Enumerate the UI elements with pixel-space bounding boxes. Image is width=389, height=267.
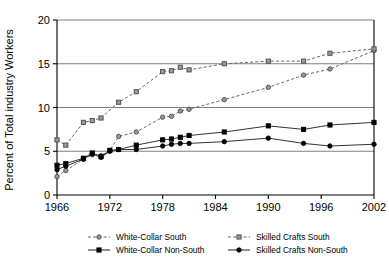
data-point [55,163,59,167]
data-point [116,134,120,138]
data-point [222,139,226,143]
x-tick-label: 1972 [98,201,122,213]
data-point [99,116,103,120]
legend-marker [97,248,101,252]
data-point [178,109,182,113]
x-tick-label: 1990 [256,201,280,213]
legend-label: Skilled Crafts Non-South [256,245,348,255]
data-point [372,142,376,146]
legend-label: Skilled Crafts South [256,232,330,242]
chart-background [0,0,389,267]
data-point [160,115,164,119]
data-point [301,127,305,131]
y-tick-label: 15 [38,58,50,70]
data-point [160,144,164,148]
data-point [187,107,191,111]
data-point [266,85,270,89]
data-point [222,62,226,66]
x-tick-label: 1966 [45,201,69,213]
data-point [81,120,85,124]
data-point [187,133,191,137]
data-point [178,141,182,145]
legend-marker [97,235,101,239]
data-point [169,114,173,118]
data-point [81,157,85,161]
legend-marker [237,235,241,239]
data-point [178,65,182,69]
data-point [187,68,191,72]
data-point [328,67,332,71]
data-point [55,174,59,178]
data-point [161,70,165,74]
x-tick-label: 2002 [362,201,386,213]
data-point [116,147,120,151]
data-point [328,123,332,127]
data-point [222,97,226,101]
line-chart: Percent of Total industry Workers 051015… [0,0,389,267]
legend-marker [237,248,241,252]
data-point [169,142,173,146]
data-point [134,90,138,94]
legend-label: White-Collar South [116,232,187,242]
data-point [55,167,59,171]
y-tick-label: 5 [44,145,50,157]
data-point [301,59,305,63]
data-point [161,138,165,142]
legend-label: White-Collar Non-South [116,245,205,255]
data-point [266,136,270,140]
data-point [169,137,173,141]
data-point [134,130,138,134]
data-point [328,51,332,55]
data-point [64,164,68,168]
y-tick-label: 10 [38,102,50,114]
x-tick-label: 1978 [150,201,174,213]
data-point [178,135,182,139]
y-tick-label: 20 [38,14,50,26]
y-tick-label: 0 [44,189,50,201]
data-point [222,130,226,134]
data-point [372,120,376,124]
data-point [134,147,138,151]
data-point [266,124,270,128]
data-point [64,168,68,172]
data-point [301,73,305,77]
data-point [55,138,59,142]
data-point [108,149,112,153]
data-point [134,143,138,147]
data-point [301,141,305,145]
x-tick-label: 1984 [203,201,227,213]
data-point [328,144,332,148]
data-point [90,119,94,123]
chart-root: Percent of Total industry Workers 051015… [0,0,389,267]
data-point [117,100,121,104]
x-tick-label: 1996 [309,201,333,213]
data-point [266,59,270,63]
data-point [187,141,191,145]
data-point [90,152,94,156]
data-point [99,155,103,159]
data-point [64,143,68,147]
y-axis-title: Percent of Total industry Workers [3,29,15,191]
data-point [169,69,173,73]
data-point [372,47,376,51]
